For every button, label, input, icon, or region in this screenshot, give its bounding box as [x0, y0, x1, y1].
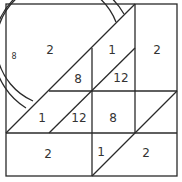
inner-arc	[0, 0, 116, 101]
label-right-column: 2	[153, 43, 161, 57]
label-bottom-right-triangle: 2	[142, 146, 150, 160]
label-upper-right-bottom: 12	[113, 71, 128, 85]
label-bottom-middle-triangle: 1	[97, 145, 105, 159]
puzzle-diagram: 2 8 8 1 12 2 1 12 8 2 1 2	[0, 0, 182, 182]
label-ring: 8	[11, 52, 16, 61]
label-upper-right-top: 1	[108, 43, 116, 57]
label-mid-left-triangle: 1	[38, 111, 46, 125]
label-center-square: 8	[109, 111, 117, 125]
label-bottom-left-rect: 2	[44, 147, 52, 161]
label-circle-region: 2	[46, 43, 54, 57]
label-mid-center-triangle: 12	[71, 111, 86, 125]
label-upper-middle-triangle: 8	[74, 72, 82, 86]
